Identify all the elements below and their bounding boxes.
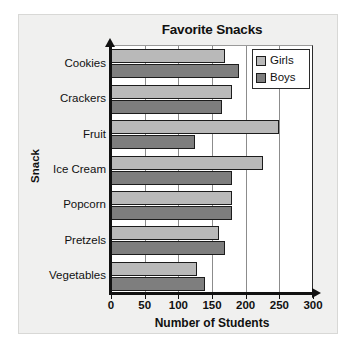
bar-cookies-boys — [111, 64, 239, 78]
bar-pretzels-boys — [111, 241, 225, 255]
x-tick-label-0: 0 — [108, 299, 114, 311]
bar-pretzels-girls — [111, 226, 219, 240]
x-tick-label-150: 150 — [202, 299, 221, 311]
bar-ice-cream-boys — [111, 171, 232, 185]
chart-title: Favorite Snacks — [111, 22, 313, 37]
bar-popcorn-boys — [111, 206, 232, 220]
y-axis-title: Snack — [29, 126, 41, 206]
bar-crackers-boys — [111, 100, 222, 114]
gridline-200 — [246, 46, 247, 293]
bar-fruit-boys — [111, 135, 195, 149]
category-label-crackers: Crackers — [60, 92, 106, 104]
legend: Girls Boys — [252, 49, 310, 89]
category-label-pretzels: Pretzels — [64, 234, 106, 246]
bar-crackers-girls — [111, 85, 232, 99]
y-axis-arrow-icon — [105, 38, 115, 47]
category-label-ice-cream: Ice Cream — [53, 163, 106, 175]
legend-label-boys: Boys — [270, 72, 296, 84]
bar-vegetables-girls — [111, 262, 197, 276]
gridline-50 — [145, 46, 146, 293]
boys-swatch-icon — [256, 73, 266, 83]
girls-swatch-icon — [256, 56, 266, 66]
category-label-popcorn: Popcorn — [63, 198, 106, 210]
bar-cookies-girls — [111, 49, 225, 63]
bar-fruit-girls — [111, 120, 279, 134]
gridline-150 — [212, 46, 213, 293]
bar-popcorn-girls — [111, 191, 232, 205]
x-tick-label-50: 50 — [138, 299, 151, 311]
x-tick-label-250: 250 — [270, 299, 289, 311]
category-label-vegetables: Vegetables — [49, 269, 106, 281]
legend-label-girls: Girls — [270, 55, 294, 67]
x-tick-label-100: 100 — [169, 299, 188, 311]
x-axis-line — [109, 292, 313, 295]
chart-page: Favorite Snacks 050100150200250300 Cooki… — [0, 0, 355, 349]
x-axis-title: Number of Students — [111, 316, 313, 330]
x-tick-label-200: 200 — [236, 299, 255, 311]
category-label-cookies: Cookies — [64, 57, 106, 69]
gridline-100 — [178, 46, 179, 293]
legend-entry-boys: Boys — [256, 69, 306, 86]
x-tick-label-300: 300 — [303, 299, 322, 311]
category-label-fruit: Fruit — [83, 128, 106, 140]
legend-entry-girls: Girls — [256, 52, 306, 69]
y-axis-line — [109, 45, 112, 293]
bar-vegetables-boys — [111, 277, 205, 291]
bar-ice-cream-girls — [111, 156, 263, 170]
